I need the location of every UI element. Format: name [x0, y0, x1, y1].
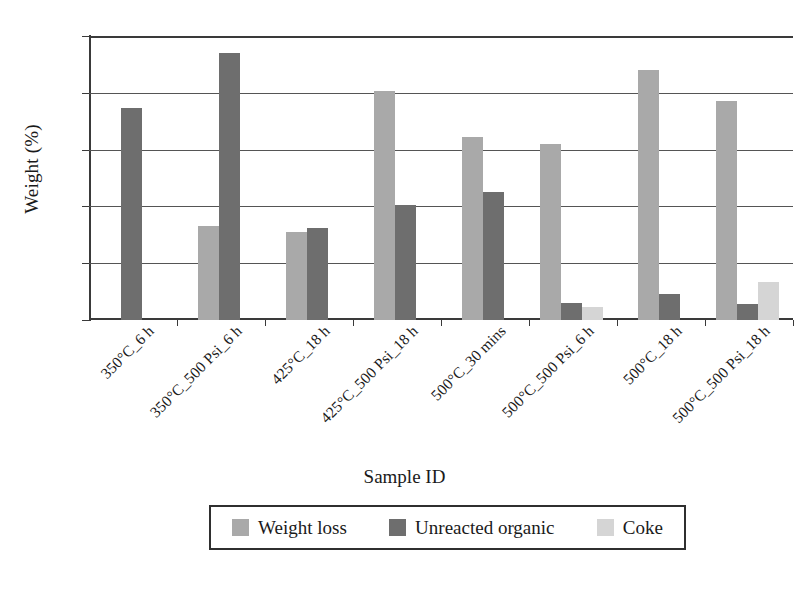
chart-legend: Weight lossUnreacted organicCoke: [209, 505, 686, 550]
legend-item[interactable]: Weight loss: [232, 517, 347, 539]
bar-weight-loss: [462, 137, 483, 320]
bar-chart-figure: Weight (%) 0246810 350°C_6 h350°C_500 Ps…: [0, 0, 809, 593]
bar-unreacted-organic: [737, 304, 758, 320]
x-tick-label: 425°C_500 Psi_18 h: [317, 322, 422, 427]
bar-group: [705, 36, 793, 320]
plot-area: 0246810: [89, 36, 793, 320]
legend-label: Unreacted organic: [415, 517, 554, 539]
x-tick-label: 425°C_18 h: [267, 322, 333, 388]
bar-coke: [582, 307, 603, 320]
y-tick-mark: [82, 206, 89, 207]
y-axis-title: Weight (%): [21, 69, 43, 269]
bar-weight-loss: [374, 91, 395, 320]
bar-unreacted-organic: [561, 303, 582, 320]
bar-group: [441, 36, 529, 320]
bar-group: [617, 36, 705, 320]
bar-group: [529, 36, 617, 320]
y-tick-mark: [82, 150, 89, 151]
y-tick-mark: [82, 93, 89, 94]
x-axis-title: Sample ID: [0, 466, 809, 488]
bar-unreacted-organic: [659, 294, 680, 320]
bar-coke: [758, 282, 779, 320]
legend-swatch-icon: [389, 519, 406, 536]
legend-swatch-icon: [232, 519, 249, 536]
x-tick-label: 500°C_30 mins: [427, 322, 509, 404]
bar-weight-loss: [198, 226, 219, 320]
bar-unreacted-organic: [395, 205, 416, 320]
bar-weight-loss: [540, 144, 561, 320]
legend-label: Weight loss: [258, 517, 347, 539]
y-tick-mark: [82, 320, 89, 321]
legend-item[interactable]: Unreacted organic: [389, 517, 554, 539]
legend-label: Coke: [623, 517, 663, 539]
x-tick-label: 500°C_500 Psi_6 h: [498, 322, 597, 421]
legend-swatch-icon: [597, 519, 614, 536]
legend-item[interactable]: Coke: [597, 517, 663, 539]
bar-group: [177, 36, 265, 320]
x-axis-tick-labels: 350°C_6 h350°C_500 Psi_6 h425°C_18 h425°…: [89, 322, 793, 457]
y-tick-mark: [82, 36, 89, 37]
bar-group: [89, 36, 177, 320]
bar-unreacted-organic: [483, 192, 504, 320]
bar-weight-loss: [638, 70, 659, 320]
bar-group: [265, 36, 353, 320]
bar-unreacted-organic: [121, 108, 142, 320]
y-tick-mark: [82, 263, 89, 264]
x-tick-label: 500°C_500 Psi_18 h: [669, 322, 774, 427]
x-tick-label: 500°C_18 h: [619, 322, 685, 388]
bar-weight-loss: [716, 101, 737, 320]
bar-weight-loss: [286, 232, 307, 320]
bar-group: [353, 36, 441, 320]
x-tick-label: 350°C_500 Psi_6 h: [146, 322, 245, 421]
x-tick-mark: [793, 320, 794, 326]
bar-unreacted-organic: [219, 53, 240, 320]
bar-unreacted-organic: [307, 228, 328, 320]
x-tick-label: 350°C_6 h: [97, 322, 158, 383]
